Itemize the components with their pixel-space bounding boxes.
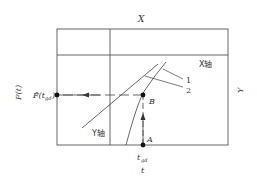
label-f-hat-tgd: F̂(t gd ) — [32, 91, 55, 102]
label-a: A — [146, 135, 153, 144]
svg-text:): ) — [51, 91, 55, 100]
diagram-canvas: X X轴 Y轴 1 2 B A t gd t F̂(t gd ) F(t) Y — [0, 0, 257, 185]
label-y-axis: Y轴 — [91, 128, 105, 138]
label-y: Y — [236, 87, 245, 93]
svg-text:gd: gd — [141, 157, 147, 164]
point-b — [141, 93, 146, 98]
label-f-t: F(t) — [14, 85, 23, 101]
label-curve-1: 1 — [186, 76, 191, 85]
point-a — [141, 143, 146, 148]
label-b: B — [148, 97, 155, 106]
mapping-diagonal — [82, 64, 158, 128]
arrow-up-icon — [141, 113, 146, 120]
label-x-axis: X轴 — [199, 59, 212, 69]
leader-line-1 — [163, 69, 183, 79]
label-t-gd: t gd — [137, 153, 147, 164]
point-f-tgd — [55, 93, 60, 98]
svg-text:gd: gd — [45, 95, 51, 102]
label-curve-2: 2 — [186, 86, 191, 95]
label-x: X — [137, 14, 145, 24]
svg-text:F̂(t: F̂(t — [32, 91, 46, 100]
label-t: t — [141, 166, 145, 175]
